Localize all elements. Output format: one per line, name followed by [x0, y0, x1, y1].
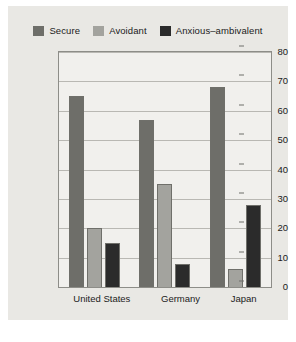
legend-item-1: Avoidant	[93, 25, 147, 36]
bar	[105, 243, 120, 287]
bar	[228, 269, 243, 287]
y-tick-label: 50	[244, 134, 288, 145]
y-tick-mark	[239, 134, 244, 135]
y-tick-label: 40	[244, 163, 288, 174]
bar	[246, 205, 261, 287]
y-tick-mark	[239, 75, 244, 76]
legend-swatch-icon	[93, 26, 104, 36]
y-tick-label: 60	[244, 104, 288, 115]
x-axis-labels: United StatesGermanyJapan	[58, 293, 272, 304]
bar-group	[139, 52, 190, 287]
y-tick-mark	[239, 281, 244, 282]
y-tick-label: 80	[244, 46, 288, 57]
legend-item-2: Anxious–ambivalent	[160, 25, 263, 36]
chart-legend: SecureAvoidantAnxious–ambivalent	[8, 25, 288, 36]
legend-label: Anxious–ambivalent	[176, 25, 263, 36]
legend-item-0: Secure	[33, 25, 80, 36]
y-tick-mark	[239, 46, 244, 47]
y-tick-mark	[239, 163, 244, 164]
y-tick-label: 70	[244, 75, 288, 86]
bar	[87, 228, 102, 287]
legend-swatch-icon	[33, 26, 44, 36]
y-tick-label: 10	[244, 251, 288, 262]
plot-area	[58, 51, 272, 288]
y-tick-mark	[239, 104, 244, 105]
y-tick-label: 20	[244, 222, 288, 233]
legend-label: Avoidant	[109, 25, 147, 36]
y-tick-mark	[239, 192, 244, 193]
bar-group	[69, 52, 120, 287]
legend-label: Secure	[49, 25, 80, 36]
chart-figure: SecureAvoidantAnxious–ambivalent Percent…	[8, 6, 288, 320]
y-tick-label: 0	[244, 281, 288, 292]
bar	[69, 96, 84, 287]
x-tick-label: United States	[73, 293, 130, 304]
bar	[139, 120, 154, 287]
bar	[175, 264, 190, 288]
x-tick-label: Germany	[161, 293, 200, 304]
y-tick-mark	[239, 251, 244, 252]
y-tick-label: 30	[244, 192, 288, 203]
y-tick-mark	[239, 222, 244, 223]
x-tick-label: Japan	[231, 293, 257, 304]
bar	[210, 87, 225, 287]
legend-swatch-icon	[160, 26, 171, 36]
bar	[157, 184, 172, 287]
